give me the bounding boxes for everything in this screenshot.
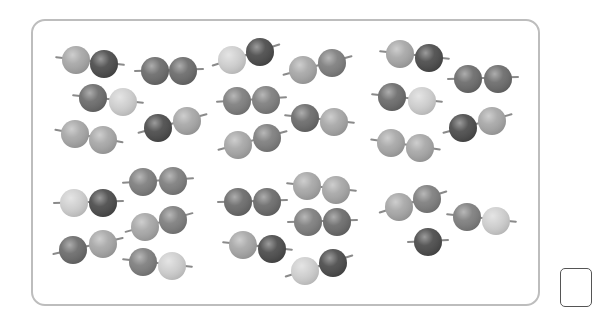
bead-group-bottom-middle (218, 172, 357, 285)
bead-pair (217, 86, 286, 115)
bead-highlight (129, 168, 157, 196)
bead-highlight (408, 87, 436, 115)
bead-highlight (377, 129, 405, 157)
bead-highlight (224, 131, 252, 159)
bead-highlight (79, 84, 107, 112)
bead-highlight (378, 83, 406, 111)
bead-highlight (129, 248, 157, 276)
bead-highlight (454, 65, 482, 93)
bead-highlight (322, 176, 350, 204)
bead-group-top-middle (213, 38, 354, 159)
bead-pair (371, 129, 439, 162)
bead-pair (286, 249, 352, 285)
bead-highlight (131, 213, 159, 241)
bead-pair (288, 208, 357, 236)
bead-highlight (224, 188, 252, 216)
bead-highlight (406, 134, 434, 162)
bead-group-top-right (371, 40, 518, 162)
bead-highlight (159, 206, 187, 234)
bead-pair (53, 230, 122, 264)
bead-highlight (169, 57, 197, 85)
bead-highlight (291, 257, 319, 285)
bead-highlight (253, 124, 281, 152)
bead-pair (73, 84, 143, 116)
bead-highlight (258, 235, 286, 263)
bead-highlight (223, 87, 251, 115)
bead-highlight (173, 107, 201, 135)
bead-groups (53, 38, 518, 285)
bead-pair (448, 65, 518, 93)
bead-highlight (319, 249, 347, 277)
bead-group-bottom-right (380, 185, 516, 256)
bead-highlight (159, 167, 187, 195)
bead-highlight (413, 185, 441, 213)
bead-highlight (323, 208, 351, 236)
bead-highlight (294, 208, 322, 236)
bead-pair (218, 188, 287, 216)
bead-pair (139, 107, 207, 142)
bead-highlight (89, 189, 117, 217)
bead-highlight (320, 108, 348, 136)
bead-pair (223, 231, 292, 263)
bead-pair (219, 124, 287, 159)
bead-highlight (246, 38, 274, 66)
bead-pair (408, 228, 448, 256)
bead-highlight (141, 57, 169, 85)
answer-box[interactable] (560, 268, 592, 307)
bead-highlight (62, 46, 90, 74)
bead-highlight (318, 49, 346, 77)
bead-highlight (291, 104, 319, 132)
bead-pair (56, 46, 124, 78)
bead-pair (285, 104, 354, 136)
bead-highlight (453, 203, 481, 231)
bead-highlight (158, 252, 186, 280)
bead-group-top-left (55, 46, 206, 154)
bead-highlight (144, 114, 172, 142)
bead-pair (55, 120, 122, 154)
bead-highlight (252, 86, 280, 114)
bead-highlight (484, 65, 512, 93)
bead-highlight (385, 193, 413, 221)
bead-pair (123, 167, 193, 196)
bead-highlight (414, 228, 442, 256)
bead-pair (287, 172, 356, 204)
bead-highlight (90, 50, 118, 78)
bead-pair (284, 49, 352, 84)
bead-highlight (386, 40, 414, 68)
bead-pair (380, 185, 446, 221)
bead-pair (447, 203, 516, 235)
bead-pair (54, 189, 123, 217)
bead-pair (444, 107, 512, 142)
bead-highlight (229, 231, 257, 259)
bead-group-bottom-left (53, 167, 193, 280)
bead-highlight (289, 56, 317, 84)
bead-highlight (89, 126, 117, 154)
bead-highlight (478, 107, 506, 135)
bead-highlight (449, 114, 477, 142)
bead-pair (135, 57, 203, 85)
bead-highlight (89, 230, 117, 258)
bead-highlight (415, 44, 443, 72)
bead-pair (372, 83, 442, 115)
bead-highlight (60, 189, 88, 217)
bead-highlight (253, 188, 281, 216)
bead-highlight (61, 120, 89, 148)
bead-pair (213, 38, 279, 74)
bead-pair (126, 206, 193, 241)
bead-highlight (218, 46, 246, 74)
bead-highlight (109, 88, 137, 116)
bead-pair (123, 248, 192, 280)
bead-highlight (59, 236, 87, 264)
bead-highlight (293, 172, 321, 200)
bead-pair (380, 40, 449, 72)
bead-highlight (482, 207, 510, 235)
